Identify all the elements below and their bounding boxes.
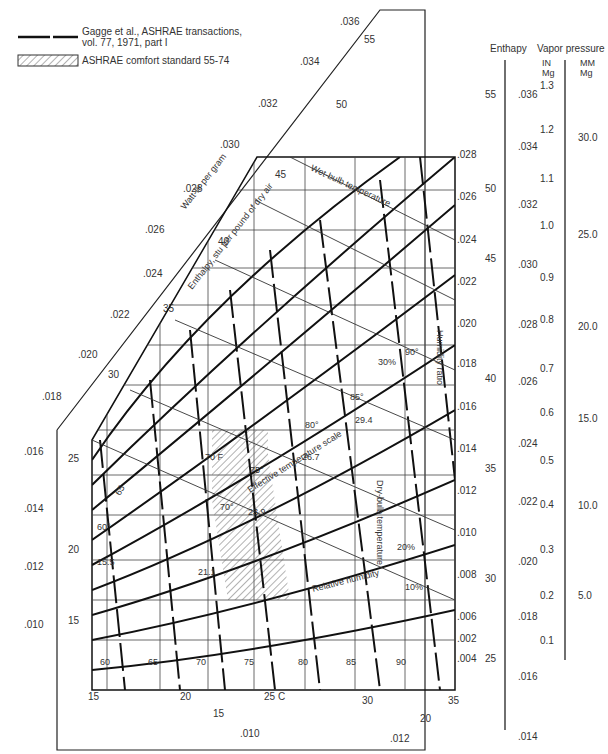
svg-text:70 F: 70 F xyxy=(205,452,224,462)
svg-text:30%: 30% xyxy=(378,357,396,367)
svg-text:60: 60 xyxy=(100,657,110,667)
svg-text:.012: .012 xyxy=(390,733,410,744)
svg-text:20%: 20% xyxy=(397,542,415,552)
svg-text:60°: 60° xyxy=(97,522,111,532)
svg-text:85: 85 xyxy=(346,657,356,667)
svg-text:.034: .034 xyxy=(300,56,320,67)
svg-text:15.0: 15.0 xyxy=(578,413,598,424)
svg-text:30: 30 xyxy=(485,573,497,584)
svg-text:20: 20 xyxy=(68,544,80,555)
svg-text:1.1: 1.1 xyxy=(540,173,554,184)
svg-text:0.9: 0.9 xyxy=(540,272,554,283)
svg-text:.022: .022 xyxy=(518,496,538,507)
svg-text:5.0: 5.0 xyxy=(578,590,592,601)
svg-text:30: 30 xyxy=(108,369,120,380)
svg-text:0.3: 0.3 xyxy=(540,544,554,555)
svg-text:35: 35 xyxy=(485,463,497,474)
svg-text:90: 90 xyxy=(396,657,406,667)
svg-text:.010: .010 xyxy=(457,527,477,538)
svg-text:20.0: 20.0 xyxy=(578,321,598,332)
svg-text:.034: .034 xyxy=(518,141,538,152)
svg-text:15.5: 15.5 xyxy=(97,557,115,567)
svg-text:.026: .026 xyxy=(145,224,165,235)
svg-text:10%: 10% xyxy=(405,582,423,592)
legend-gagge-line2: vol. 77, 1971, part I xyxy=(82,37,168,48)
svg-text:20: 20 xyxy=(180,691,192,702)
svg-text:.010: .010 xyxy=(240,728,260,739)
vapor-pressure-scale: Vapor pressure INMg MMMg 1.31.2 1.11.0 0… xyxy=(537,43,605,660)
svg-text:45: 45 xyxy=(275,169,287,180)
svg-text:.002: .002 xyxy=(457,633,477,644)
svg-text:.016: .016 xyxy=(518,671,538,682)
svg-text:.028: .028 xyxy=(518,319,538,330)
svg-text:.032: .032 xyxy=(258,98,278,109)
svg-text:.006: .006 xyxy=(457,611,477,622)
svg-text:.018: .018 xyxy=(518,611,538,622)
svg-text:0.4: 0.4 xyxy=(540,499,554,510)
svg-text:25 C: 25 C xyxy=(264,691,285,702)
enthalpy-label: Enthalpy, stu per pound of dry air xyxy=(186,181,275,291)
plot-area: 60° 15.5 65 21.1 23.9 26.7 29.4 75° 80° … xyxy=(92,157,455,690)
psychrometric-chart: Gagge et al., ASHRAE transactions, vol. … xyxy=(0,0,608,754)
svg-text:20: 20 xyxy=(420,713,432,724)
svg-text:15: 15 xyxy=(88,691,100,702)
svg-text:.020: .020 xyxy=(518,556,538,567)
svg-text:70: 70 xyxy=(196,657,206,667)
legend-gagge-line1: Gagge et al., ASHRAE transactions, xyxy=(82,26,242,37)
svg-text:.032: .032 xyxy=(518,199,538,210)
svg-text:.012: .012 xyxy=(457,485,477,496)
svg-text:29.4: 29.4 xyxy=(355,415,373,425)
svg-text:0.8: 0.8 xyxy=(540,314,554,325)
svg-text:.022: .022 xyxy=(457,276,477,287)
svg-text:30: 30 xyxy=(362,695,374,706)
svg-text:1.0: 1.0 xyxy=(540,220,554,231)
svg-text:25: 25 xyxy=(485,653,497,664)
svg-text:21.1: 21.1 xyxy=(198,567,216,577)
svg-text:35: 35 xyxy=(448,695,460,706)
svg-text:55: 55 xyxy=(364,34,376,45)
svg-text:15: 15 xyxy=(68,615,80,626)
svg-text:.016: .016 xyxy=(457,401,477,412)
svg-text:Mg: Mg xyxy=(580,68,593,78)
svg-text:80°: 80° xyxy=(305,420,319,430)
svg-text:0.1: 0.1 xyxy=(540,635,554,646)
svg-text:Mg: Mg xyxy=(542,68,555,78)
svg-text:.014: .014 xyxy=(457,443,477,454)
svg-text:.014: .014 xyxy=(24,503,44,514)
svg-text:1.3: 1.3 xyxy=(540,80,554,91)
svg-text:25.0: 25.0 xyxy=(578,229,598,240)
svg-text:.018: .018 xyxy=(42,391,62,402)
svg-text:.036: .036 xyxy=(340,16,360,27)
svg-text:IN: IN xyxy=(542,58,551,68)
svg-text:45: 45 xyxy=(485,253,497,264)
enthalpy-header: Enthapy xyxy=(490,43,527,54)
svg-text:.026: .026 xyxy=(457,191,477,202)
svg-text:.024: .024 xyxy=(518,438,538,449)
svg-text:40: 40 xyxy=(485,373,497,384)
svg-text:25: 25 xyxy=(68,453,80,464)
right-enthalpy-scale: Enthapy 5550 4540 3530 25 .036.034 .032.… xyxy=(485,43,538,742)
svg-text:65: 65 xyxy=(148,657,158,667)
svg-text:.016: .016 xyxy=(24,446,44,457)
svg-text:.018: .018 xyxy=(457,358,477,369)
svg-text:85°: 85° xyxy=(350,392,364,402)
svg-text:.014: .014 xyxy=(518,731,538,742)
svg-text:.028: .028 xyxy=(457,149,477,160)
svg-text:.026: .026 xyxy=(518,376,538,387)
svg-text:.010: .010 xyxy=(24,619,44,630)
svg-text:75°: 75° xyxy=(250,465,264,475)
svg-text:.024: .024 xyxy=(143,268,163,279)
svg-text:10.0: 10.0 xyxy=(578,500,598,511)
svg-text:75: 75 xyxy=(244,657,254,667)
svg-text:.036: .036 xyxy=(518,89,538,100)
legend-ashrae: ASHRAE comfort standard 55-74 xyxy=(82,55,230,66)
svg-text:55: 55 xyxy=(485,89,497,100)
svg-text:.020: .020 xyxy=(78,349,98,360)
svg-text:50: 50 xyxy=(336,99,348,110)
svg-text:0.7: 0.7 xyxy=(540,363,554,374)
svg-text:.022: .022 xyxy=(110,309,130,320)
svg-text:30.0: 30.0 xyxy=(578,132,598,143)
hr-label: Humidity ratio xyxy=(435,330,445,385)
svg-text:.024: .024 xyxy=(457,234,477,245)
svg-text:80: 80 xyxy=(298,657,308,667)
